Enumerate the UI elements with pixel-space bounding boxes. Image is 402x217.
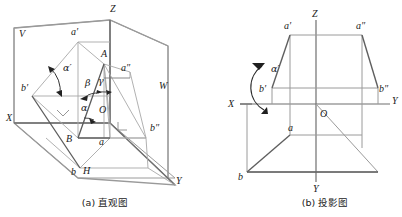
wire-adbl-bdbl (130, 72, 146, 138)
label-b: b (238, 171, 243, 182)
silhouette-path (14, 20, 175, 185)
w-plane-outline (110, 20, 168, 178)
segment-b-to-bprime (32, 96, 80, 168)
label-a: a (288, 122, 293, 133)
segment-b-a (247, 135, 290, 172)
label-a-prime: a′ (71, 26, 79, 37)
label-b-prime: b′ (259, 83, 267, 94)
panel-a-group: V Z a′ A a″ W b′ X B O a b H b″ Y α β γ … (5, 3, 183, 186)
v-plane-outline (14, 20, 110, 123)
label-X: X (227, 98, 235, 109)
gamma-arrow-l (96, 90, 102, 94)
panel-a-silhouette (14, 20, 175, 185)
label-A: A (100, 48, 108, 59)
alpha-prime-arc-a (50, 68, 60, 95)
label-alpha-prime: α′ (63, 62, 72, 73)
label-beta: β (84, 77, 91, 88)
label-X: X (5, 112, 13, 123)
segment-adbl-bdbl (362, 35, 378, 88)
label-b-prime: b′ (21, 82, 29, 93)
label-Z: Z (110, 3, 116, 14)
wire-h-rect-right (146, 138, 148, 168)
label-O: O (320, 108, 327, 119)
caption-orthographic: (b) 投影图 (302, 197, 348, 208)
beta-arc (88, 93, 96, 95)
alpha-arc (84, 118, 94, 120)
label-b: b (71, 166, 76, 177)
label-a: a (99, 136, 104, 147)
label-alpha-prime: α′ (271, 63, 280, 74)
label-Y: Y (176, 175, 183, 186)
label-V: V (19, 28, 27, 39)
w-plane-path (110, 20, 168, 178)
panel-a-axes (14, 20, 175, 185)
captions-group: (a) 直观图 (b) 投影图 (82, 197, 348, 208)
wire-bprime-B (32, 96, 78, 138)
label-Y-bottom: Y (313, 183, 320, 194)
label-a-dblprime: a″ (356, 20, 366, 31)
label-Z: Z (312, 8, 318, 19)
wire-bdbl-y (148, 168, 175, 185)
v-plane-path (14, 20, 110, 123)
panel-b-axes (240, 20, 390, 182)
alpha-prime-arrow-top-b (252, 63, 265, 70)
label-a-prime: a′ (284, 20, 292, 31)
gamma-arrow-r (106, 90, 112, 95)
technical-drawing-svg: V Z a′ A a″ W b′ X B O a b H b″ Y α β γ … (0, 0, 402, 217)
alpha-prime-arrowheads-a (48, 66, 62, 97)
label-O: O (99, 104, 106, 115)
alpha-prime-arc-path (50, 68, 60, 95)
label-b-dblprime: b″ (379, 83, 389, 94)
panel-a-labels: V Z a′ A a″ W b′ X B O a b H b″ Y α β γ … (5, 3, 183, 186)
label-alpha: α (81, 102, 88, 113)
right-angle-mark-2 (118, 122, 127, 130)
label-a-dblprime: a″ (121, 62, 131, 73)
label-Y-right: Y (392, 95, 399, 106)
label-B: B (66, 133, 72, 144)
segment-bprime-aprime (272, 35, 290, 88)
label-gamma: γ (98, 75, 104, 86)
wire-b-a (80, 138, 110, 168)
panel-b-group: Z a′ a″ b′ b″ X Y O a b Y α′ (227, 8, 399, 194)
right-angle-mark-1 (57, 110, 69, 116)
caption-pictorial: (a) 直观图 (82, 197, 128, 208)
label-H: H (82, 165, 91, 176)
alpha-prime-arrow-bottom-b (261, 107, 268, 114)
figure-root: V Z a′ A a″ W b′ X B O a b H b″ Y α β γ … (0, 0, 402, 217)
label-b-dblprime: b″ (150, 122, 160, 133)
